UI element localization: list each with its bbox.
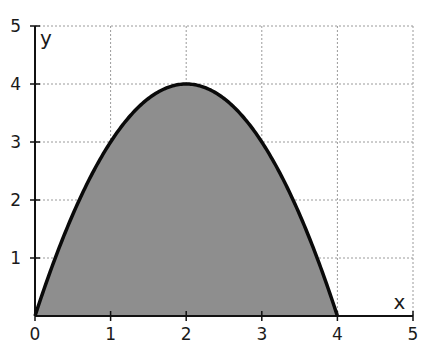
y-tick-label: 1 (10, 248, 21, 268)
x-tick-label: 5 (408, 324, 419, 344)
y-tick-label: 4 (10, 74, 21, 94)
x-tick-label: 0 (30, 324, 41, 344)
y-tick-label: 2 (10, 190, 21, 210)
area-chart: 01234512345 x y (0, 0, 423, 347)
x-tick-label: 2 (181, 324, 192, 344)
y-tick-label: 5 (10, 16, 21, 36)
x-tick-label: 4 (332, 324, 343, 344)
y-tick-label: 3 (10, 132, 21, 152)
x-axis-label: x (393, 290, 405, 314)
x-tick-label: 3 (256, 324, 267, 344)
x-tick-label: 1 (105, 324, 116, 344)
y-axis-label: y (40, 26, 52, 50)
